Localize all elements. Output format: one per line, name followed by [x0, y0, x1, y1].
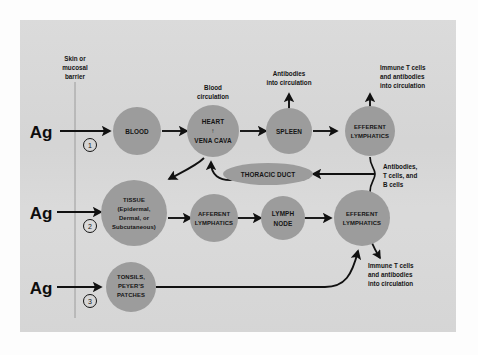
- node-tonsils-line2: PEYER'S: [118, 283, 144, 289]
- node-efferent-lymphatics-mid[interactable]: [334, 190, 390, 246]
- entry-number-2: 2: [88, 223, 92, 230]
- node-efferent-top-line1: EFFERENT: [354, 124, 386, 130]
- barrier-label-line1: Skin or: [64, 55, 86, 62]
- node-lymph-node-line2: NODE: [274, 220, 294, 227]
- node-tissue-line3: Dermal, or: [119, 215, 150, 221]
- node-thoracic-duct-label: THORACIC DUCT: [241, 171, 296, 178]
- annotation-antibodies-tb-line1: Antibodies,: [383, 163, 418, 171]
- annotation-immune-bottom-line3: into circulation: [368, 280, 413, 287]
- node-tonsils-line1: TONSILS,: [117, 274, 145, 280]
- node-blood-label: BLOOD: [125, 128, 149, 135]
- annotation-immune-top-line2: and antibodies: [380, 73, 425, 80]
- node-lymph-node[interactable]: [261, 196, 305, 240]
- node-afferent-line1: AFFERENT: [198, 211, 231, 217]
- annotation-immune-top-line1: Immune T cells: [380, 64, 426, 71]
- node-efferent-top-line2: LYMPHATICS: [351, 133, 389, 139]
- annotation-antibodies-spleen-line1: Antibodies: [273, 70, 306, 77]
- annotation-immune-bottom-line1: Immune T cells: [368, 262, 414, 269]
- diagram-canvas: Skin or mucosal barrier BLOOD HE: [0, 0, 478, 355]
- arrow-efferent-mid-out: [372, 243, 380, 258]
- antigen-label-3: Ag: [30, 279, 53, 298]
- arrow-heart-to-tissue: [169, 158, 204, 179]
- annotation-antibodies-spleen-line2: into circulation: [266, 79, 311, 86]
- annotation-blood-circulation-line1: Blood: [204, 84, 222, 91]
- annotation-antibodies-tb-line2: T cells, and: [383, 172, 417, 180]
- barrier-label-line3: barrier: [65, 73, 86, 80]
- antigen-label-1: Ag: [30, 123, 53, 142]
- node-afferent-lymphatics[interactable]: [190, 194, 238, 242]
- arrow-tonsils-to-efferent-mid: [156, 251, 358, 287]
- entry-number-1: 1: [88, 142, 92, 149]
- node-heart-label: HEART: [202, 118, 225, 125]
- node-efferent-mid-line1: EFFERENT: [346, 211, 378, 217]
- node-tissue-line1: TISSUE: [123, 197, 145, 203]
- entry-number-3: 3: [88, 298, 92, 305]
- node-afferent-line2: LYMPHATICS: [195, 220, 233, 226]
- node-efferent-mid-line2: LYMPHATICS: [343, 220, 381, 226]
- annotation-immune-bottom-line2: and antibodies: [368, 271, 413, 278]
- node-tissue-line2: (Epidermal,: [117, 206, 150, 212]
- annotation-antibodies-tb-line3: B cells: [383, 181, 404, 188]
- node-tonsils-line3: PATCHES: [117, 292, 145, 298]
- node-tissue-line4: Subcutaneous): [112, 224, 156, 230]
- node-tissue[interactable]: [101, 180, 167, 246]
- figure-stage: Skin or mucosal barrier BLOOD HE: [0, 0, 478, 355]
- barrier-label-line2: mucosal: [62, 64, 88, 71]
- annotation-blood-circulation-line2: circulation: [197, 93, 229, 100]
- node-spleen-label: SPLEEN: [276, 128, 302, 135]
- annotation-immune-top-line3: into circulation: [380, 82, 425, 89]
- antigen-label-2: Ag: [30, 204, 53, 223]
- node-lymph-node-line1: LYMPH: [272, 210, 295, 217]
- node-heart-up-arrow: ↑: [211, 127, 214, 134]
- node-efferent-lymphatics-top[interactable]: [345, 106, 395, 156]
- node-vena-cava-label: VENA CAVA: [194, 137, 232, 144]
